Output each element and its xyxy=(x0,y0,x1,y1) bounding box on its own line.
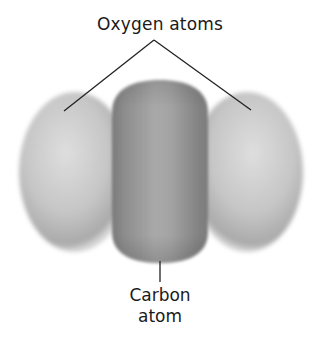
carbon-atom xyxy=(112,80,208,263)
oxygen-atoms-label: Oxygen atoms xyxy=(0,14,320,34)
carbon-label-line2: atom xyxy=(100,306,220,327)
co2-diagram: Oxygen atoms Carbon atom xyxy=(0,0,320,345)
carbon-label-line1: Carbon xyxy=(100,285,220,306)
carbon-atom-label: Carbon atom xyxy=(100,285,220,327)
